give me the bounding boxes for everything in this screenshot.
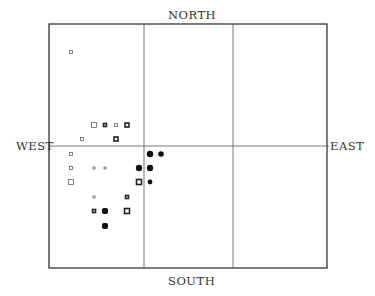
- point-marker: [115, 124, 118, 127]
- point-marker: [103, 224, 108, 229]
- point-marker: [93, 196, 95, 198]
- point-marker: [70, 153, 73, 156]
- point-marker: [125, 209, 130, 214]
- point-marker: [148, 180, 153, 185]
- point-marker: [114, 137, 118, 141]
- point-marker: [104, 124, 107, 127]
- point-marker: [70, 51, 73, 54]
- point-marker: [81, 138, 84, 141]
- scatter-plot: [0, 0, 375, 296]
- point-marker: [69, 180, 74, 185]
- point-marker: [136, 165, 142, 171]
- point-marker: [137, 180, 142, 185]
- point-marker: [70, 167, 73, 170]
- point-marker: [158, 151, 164, 157]
- point-marker: [93, 167, 95, 169]
- point-marker: [126, 196, 129, 199]
- point-marker: [125, 123, 129, 127]
- grid-lines: [49, 24, 329, 268]
- point-marker: [93, 210, 96, 213]
- data-points: [69, 51, 164, 229]
- point-marker: [147, 165, 153, 171]
- point-marker: [92, 123, 97, 128]
- point-marker: [147, 151, 153, 157]
- point-marker: [104, 167, 106, 169]
- point-marker: [103, 209, 108, 214]
